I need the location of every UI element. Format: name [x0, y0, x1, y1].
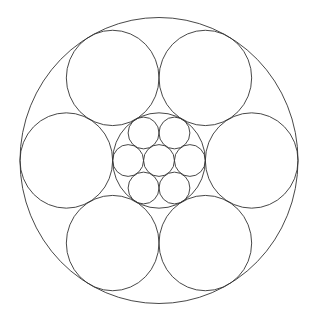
- large-circle: [159, 30, 252, 125]
- small-circle-center: [144, 145, 175, 177]
- large-circle: [205, 113, 298, 208]
- nested-circles-diagram: [0, 0, 311, 317]
- large-circle: [159, 195, 252, 290]
- small-circle: [128, 117, 159, 149]
- small-circle: [113, 145, 144, 177]
- outer-circle: [20, 17, 298, 303]
- large-circle: [66, 195, 159, 290]
- large-circle: [20, 113, 113, 208]
- inner-circle: [113, 113, 206, 208]
- small-circle: [159, 117, 190, 149]
- small-circle: [159, 172, 190, 204]
- small-circle: [128, 172, 159, 204]
- large-circle: [66, 30, 159, 125]
- small-circle: [174, 145, 205, 177]
- circle-packing-group: [20, 17, 298, 303]
